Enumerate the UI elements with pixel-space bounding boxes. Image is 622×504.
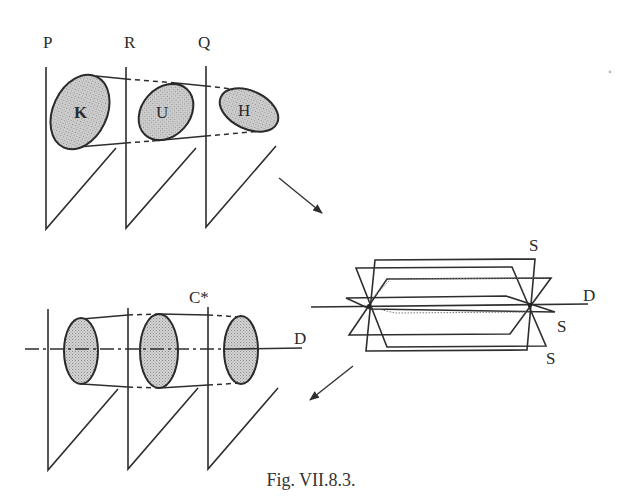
figure-caption: Fig. VII.8.3. (0, 470, 622, 491)
scan-speck (609, 71, 612, 74)
region-label-h: H (238, 101, 250, 120)
arrow-down-right-icon (279, 178, 322, 213)
cyl-bot-solid-1 (82, 384, 128, 387)
axis-d-right (311, 304, 588, 307)
plane-label-s-top: S (529, 236, 538, 255)
section-3 (224, 316, 258, 384)
region-label-k: K (74, 103, 88, 122)
pivot-left (367, 304, 371, 308)
tube-bot-dash-1 (126, 141, 152, 143)
plane-label-q: Q (198, 33, 210, 52)
cylinder-label-c-star: C* (189, 288, 209, 307)
plane-label-s-bottom: S (546, 349, 555, 368)
plane-label-s-mid: S (557, 317, 566, 336)
top-panel: P R Q K U H (39, 33, 285, 229)
bottom-panel: C* D (25, 288, 306, 470)
section-1 (64, 318, 98, 384)
cyl-bot-dash-2 (208, 383, 240, 385)
axis-label-d-bottom: D (294, 329, 306, 348)
axis-d-bottom-solid (233, 348, 302, 349)
plane-label-p: P (43, 33, 52, 52)
pivot-right (528, 303, 532, 307)
right-panel: D S S S (311, 236, 595, 368)
figure-canvas: P R Q K U H D (0, 0, 622, 504)
cyl-top-solid-2 (160, 314, 208, 315)
axis-label-d-right: D (583, 286, 595, 305)
cyl-top-dash-2 (208, 315, 240, 317)
region-label-u: U (156, 103, 168, 122)
plane-label-r: R (124, 33, 136, 52)
tube-top-dash-1 (126, 79, 176, 83)
cyl-top-solid-1 (82, 315, 128, 319)
section-2 (140, 314, 178, 388)
arrow-down-left-icon (310, 366, 353, 400)
tube-top-dash-2 (206, 86, 232, 89)
